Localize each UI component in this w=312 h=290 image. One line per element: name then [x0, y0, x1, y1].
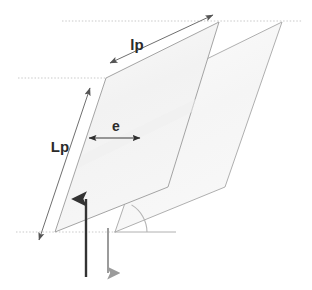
- diagram-canvas: lp Lp e: [0, 0, 312, 290]
- dimension-lp-label: lp: [130, 36, 144, 53]
- dimension-e-label: e: [112, 118, 120, 134]
- parallelogram-plate-diagram: lp Lp e: [0, 0, 312, 290]
- dimension-Lp-label: Lp: [51, 138, 70, 155]
